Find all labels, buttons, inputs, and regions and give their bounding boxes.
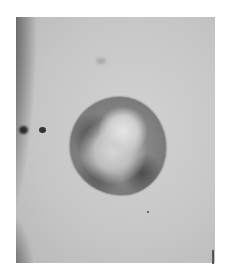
dark-spot: [19, 126, 28, 134]
skin-lesion: [70, 97, 166, 195]
skin-photo: [16, 17, 215, 263]
faint-spot: [96, 58, 106, 64]
tiny-speck: [147, 211, 149, 213]
edge-mark: [212, 250, 214, 264]
dark-spot: [39, 127, 46, 133]
bottom-left-shadow: [16, 203, 36, 263]
